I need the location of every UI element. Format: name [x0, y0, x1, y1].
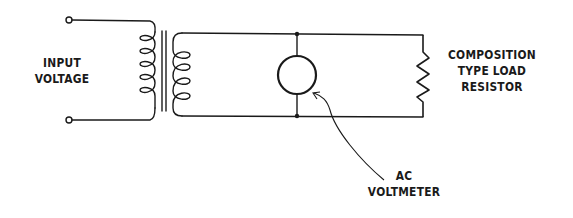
primary-coil — [140, 32, 155, 108]
bottom-rail — [182, 116, 423, 117]
voltmeter-symbol — [278, 56, 316, 94]
input-label-line-1: INPUT — [31, 55, 93, 71]
input-terminal-bottom — [66, 117, 72, 123]
meter-label-line-1: AC — [360, 168, 449, 184]
load-resistor-symbol — [417, 35, 429, 117]
junction-dot-bottom — [295, 114, 299, 118]
input-lead-top — [72, 20, 155, 32]
ac-voltmeter-label: AC VOLTMETER — [360, 168, 449, 200]
load-label-line-2: TYPE LOAD — [443, 63, 541, 79]
secondary-coil — [173, 33, 190, 116]
input-voltage-label: INPUT VOLTAGE — [31, 55, 93, 87]
meter-label-line-2: VOLTMETER — [360, 184, 449, 200]
junction-dot-top — [295, 32, 299, 36]
top-rail — [182, 33, 423, 35]
input-lead-bottom — [72, 108, 155, 120]
load-label-line-1: COMPOSITION — [443, 47, 541, 63]
voltmeter-pointer-line — [314, 93, 384, 180]
load-label-line-3: RESISTOR — [443, 79, 541, 95]
load-resistor-label: COMPOSITION TYPE LOAD RESISTOR — [443, 47, 541, 95]
input-terminal-top — [66, 17, 72, 23]
circuit-diagram — [0, 0, 573, 218]
input-label-line-2: VOLTAGE — [31, 71, 93, 87]
